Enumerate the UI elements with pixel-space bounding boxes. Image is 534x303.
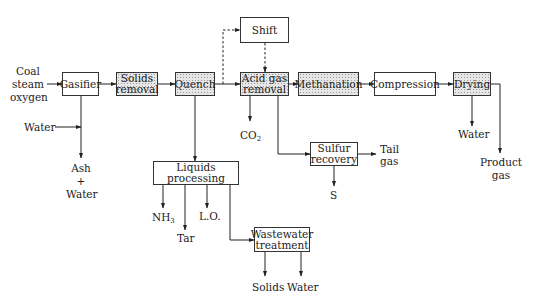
nh3-main: NH <box>152 211 170 223</box>
nh3-label: NH3 <box>152 211 175 223</box>
methanation-label: Methanation <box>295 79 363 90</box>
gasifier-box: Gasifier <box>62 72 99 96</box>
product-gas-line-2: gas <box>492 169 510 181</box>
compression-label: Compression <box>370 79 440 90</box>
tar-label: Tar <box>177 232 194 244</box>
drying-label: Drying <box>454 79 490 90</box>
liquids-processing-label: Liquids processing <box>154 162 238 184</box>
acid-gas-removal-box: Acid gasremoval <box>240 72 289 96</box>
quench-box: Quench <box>175 72 215 96</box>
sulfur-label: S <box>330 189 337 201</box>
drying-box: Drying <box>453 72 491 96</box>
shift-label: Shift <box>252 25 277 36</box>
solids-removal-label-2: removal <box>115 83 158 95</box>
feed-line-2: steam <box>12 78 44 90</box>
lo-label: L.O. <box>199 210 221 222</box>
co2-main: CO <box>240 129 257 141</box>
water-in-label: Water <box>24 121 56 133</box>
tail-gas-label: Tail gas <box>380 143 399 167</box>
feed-line-1: Coal <box>16 65 40 77</box>
ash-line-2: + <box>77 175 86 187</box>
feed-line-3: oxygen <box>10 91 48 103</box>
feed-label: Coal steam oxygen <box>10 65 46 104</box>
gasifier-label: Gasifier <box>60 79 102 90</box>
tail-gas-line-2: gas <box>380 155 398 167</box>
methanation-box: Methanation <box>298 72 359 96</box>
wastewater-treatment-label-2: treatment <box>255 239 308 251</box>
co2-sub: 2 <box>257 135 261 143</box>
shift-box: Shift <box>240 17 289 43</box>
drying-water-label: Water <box>458 128 490 140</box>
flow-lines <box>0 0 534 303</box>
acid-gas-removal-label-2: removal <box>243 83 286 95</box>
solids-label: Solids <box>252 281 284 293</box>
quench-label: Quench <box>175 79 216 90</box>
wastewater-treatment-box: Wastewatertreatment <box>254 227 310 252</box>
product-gas-label: Product gas <box>480 156 522 182</box>
ash-line-3: Water <box>66 188 98 200</box>
sulfur-recovery-label-2: recovery <box>311 153 358 165</box>
ww-water-label: Water <box>287 281 319 293</box>
sulfur-recovery-box: Sulfurrecovery <box>310 142 358 166</box>
solids-removal-box: Solidsremoval <box>116 72 158 96</box>
ash-water-label: Ash + Water <box>66 162 96 201</box>
product-gas-line-1: Product <box>480 156 522 168</box>
tail-gas-line-1: Tail <box>380 143 399 155</box>
compression-box: Compression <box>374 72 436 96</box>
liquids-processing-box: Liquids processing <box>153 161 239 185</box>
ash-line-1: Ash <box>71 162 91 174</box>
nh3-sub: 3 <box>170 217 174 225</box>
co2-label: CO2 <box>240 129 261 141</box>
